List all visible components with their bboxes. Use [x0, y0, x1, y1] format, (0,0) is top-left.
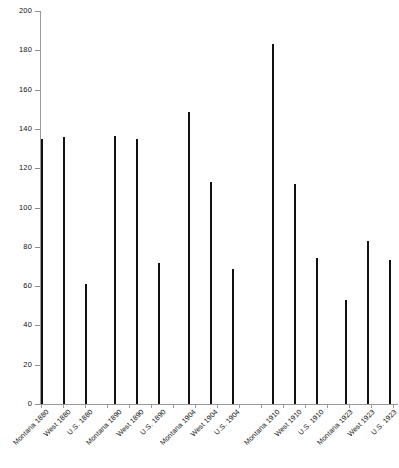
x-axis-tick	[195, 404, 196, 408]
y-axis-tick	[35, 129, 40, 130]
y-axis-tick-label: 100	[0, 204, 32, 212]
bar	[158, 263, 160, 404]
x-axis-tick	[283, 404, 284, 408]
bar	[85, 284, 87, 404]
y-axis-tick	[35, 247, 40, 248]
x-axis-tick	[173, 404, 174, 408]
y-axis-tick-label: 140	[0, 125, 32, 133]
y-axis-tick-label: 200	[0, 7, 32, 15]
x-axis-tick	[305, 404, 306, 408]
y-axis-tick-label: 40	[0, 321, 32, 329]
y-axis-tick	[35, 404, 40, 405]
bar	[188, 112, 190, 404]
bar-chart: 020406080100120140160180200 Montana 1880…	[0, 0, 399, 468]
x-axis-line	[40, 404, 398, 405]
y-axis-tick-label: 0	[0, 400, 32, 408]
bar	[294, 184, 296, 404]
x-axis-tick	[63, 404, 64, 408]
bar	[210, 182, 212, 404]
y-axis-tick-label: 160	[0, 86, 32, 94]
x-axis-tick	[107, 404, 108, 408]
x-axis-tick	[129, 404, 130, 408]
bar	[232, 269, 234, 404]
x-axis-tick	[327, 404, 328, 408]
bar	[389, 260, 391, 404]
y-axis-tick	[35, 208, 40, 209]
y-axis-tick	[35, 50, 40, 51]
x-axis-tick	[239, 404, 240, 408]
bar	[316, 258, 318, 404]
y-axis-tick	[35, 286, 40, 287]
bar	[41, 139, 43, 404]
y-axis-tick	[35, 325, 40, 326]
bar	[272, 44, 274, 404]
y-axis-tick	[35, 168, 40, 169]
bar	[345, 300, 347, 404]
y-axis-tick-label: 80	[0, 243, 32, 251]
x-axis-tick	[217, 404, 218, 408]
y-axis-tick-label: 180	[0, 46, 32, 54]
x-axis-tick	[151, 404, 152, 408]
x-axis-category-label: Montana 1880	[12, 408, 50, 446]
y-axis-tick	[35, 11, 40, 12]
y-axis-tick	[35, 365, 40, 366]
x-axis-tick	[85, 404, 86, 408]
y-axis-tick-label: 120	[0, 164, 32, 172]
y-axis-tick-label: 20	[0, 361, 32, 369]
x-axis-category-label: Montana 1910	[243, 408, 281, 446]
x-axis-tick	[261, 404, 262, 408]
bar	[63, 137, 65, 404]
bar	[367, 241, 369, 404]
bar	[136, 139, 138, 404]
y-axis-tick-label: 60	[0, 282, 32, 290]
x-axis-tick	[41, 404, 42, 408]
bar	[114, 136, 116, 404]
y-axis-tick	[35, 90, 40, 91]
